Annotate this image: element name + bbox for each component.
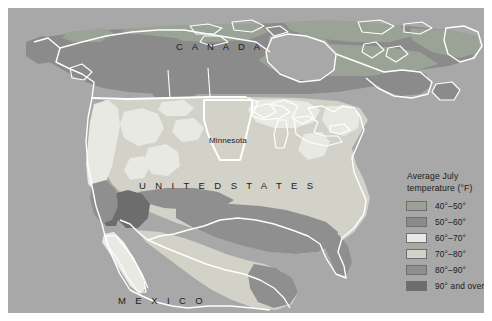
legend-label-60-70: 60°–70° [435,233,466,243]
legend-title: Average July temperature (°F) [407,171,484,194]
legend-label-90-over: 90° and over [435,281,484,291]
legend-row: 50°–60° [406,214,484,230]
legend-swatch-80-90 [406,265,427,275]
legend-swatch-70-80 [406,249,427,259]
figure-container: C A N A D A U N I T E D S T A T E S M E … [0,0,492,321]
legend-swatch-60-70 [406,233,427,243]
legend-row: 40°–50° [406,198,484,214]
legend-row: 80°–90° [406,262,484,278]
map-legend: Average July temperature (°F) 40°–50° 50… [406,171,484,294]
legend-label-50-60: 50°–60° [435,217,466,227]
legend-label-40-50: 40°–50° [435,201,466,211]
legend-label-70-80: 70°–80° [435,249,466,259]
legend-row: 90° and over [406,278,484,294]
legend-swatch-50-60 [406,217,427,227]
legend-row: 70°–80° [406,246,484,262]
legend-swatch-40-50 [406,201,427,211]
map-canvas[interactable]: C A N A D A U N I T E D S T A T E S M E … [8,8,484,313]
legend-row: 60°–70° [406,230,484,246]
legend-label-80-90: 80°–90° [435,265,466,275]
legend-swatch-90-over [406,281,427,291]
